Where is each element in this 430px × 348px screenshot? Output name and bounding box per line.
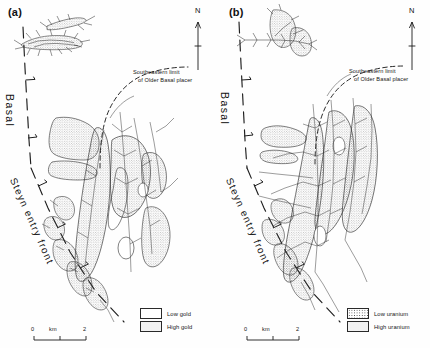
panel-b-map-graphics <box>215 0 430 348</box>
legend-label-low-uranium: Low uranium <box>374 311 408 317</box>
scale-unit-label-a: km <box>49 326 57 332</box>
annotation-line1-a: Southeastern limit <box>133 69 180 77</box>
figure-root: (a) <box>0 0 430 348</box>
legend-swatch-high-gold <box>140 321 162 332</box>
scale-left-label-a: 0 <box>31 326 34 332</box>
fault-label-basal-a: Basal <box>4 94 16 127</box>
fault-label-basal-b: Basal <box>219 92 231 125</box>
legend-label-low-gold: Low gold <box>167 311 191 317</box>
legend-swatch-low-gold <box>140 308 162 319</box>
north-label-a: N <box>195 6 200 15</box>
panel-a: (a) <box>0 0 215 348</box>
panel-b: (b) <box>215 0 430 348</box>
legend-a: Low gold High gold <box>140 308 192 334</box>
north-label-b: N <box>409 6 414 15</box>
panel-a-svg <box>0 0 215 348</box>
annotation-line2-a: of Older Basal placer <box>138 77 192 85</box>
panel-b-svg <box>215 0 430 348</box>
legend-label-high-uranium: High uranium <box>374 324 410 330</box>
legend-swatch-high-uranium <box>347 321 369 332</box>
legend-item-high-gold: High gold <box>140 321 192 332</box>
upper-channel-bodies-a <box>14 14 95 56</box>
placer-fan-a <box>44 117 170 310</box>
legend-swatch-low-uranium <box>347 308 369 319</box>
annotation-line1-b: Southeastern limit <box>349 68 396 76</box>
legend-item-low-gold: Low gold <box>140 308 192 319</box>
panel-a-map-graphics <box>0 0 215 348</box>
scale-right-label-b: 2 <box>296 326 299 332</box>
placer-fan-b <box>260 106 377 300</box>
scale-unit-label-b: km <box>262 326 270 332</box>
legend-b: Low uranium High uranium <box>347 308 410 334</box>
annotation-line2-b: of Older Basal placer <box>354 76 408 84</box>
upper-channel-bodies-b <box>237 4 317 56</box>
scale-left-label-b: 0 <box>244 326 247 332</box>
basal-fault-trace-b <box>239 22 253 168</box>
scale-right-label-a: 2 <box>83 326 86 332</box>
legend-label-high-gold: High gold <box>167 324 192 330</box>
legend-item-high-uranium: High uranium <box>347 321 410 332</box>
legend-item-low-uranium: Low uranium <box>347 308 410 319</box>
